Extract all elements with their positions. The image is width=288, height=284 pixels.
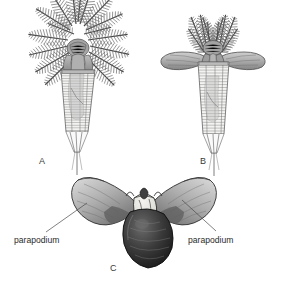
panel-letter-a: A (39, 156, 45, 166)
panel-letter-b: B (200, 156, 206, 166)
panel-b-tube-body (198, 62, 229, 134)
panel-a-collar (63, 54, 92, 72)
label-parapodium-left: parapodium (14, 235, 59, 245)
figure-root: A (0, 0, 288, 284)
panel-letter-c: C (110, 263, 117, 273)
label-parapodium-right: parapodium (188, 235, 233, 245)
anatomical-figure: A (0, 0, 288, 284)
